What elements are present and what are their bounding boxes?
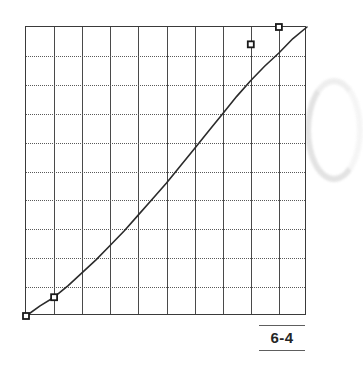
caption-rule-top <box>259 325 305 326</box>
chart-data-marker <box>248 41 254 47</box>
caption-rule-bottom <box>259 350 305 351</box>
scan-artifact-arc <box>305 78 363 182</box>
chart-data-marker <box>51 294 57 300</box>
line-chart <box>25 26 306 315</box>
chart-data-marker <box>23 313 29 319</box>
chart-plot-frame <box>25 26 306 315</box>
chart-data-marker <box>276 24 282 30</box>
figure-caption: 6-4 <box>259 325 305 357</box>
caption-label: 6-4 <box>259 329 305 347</box>
chart-curve <box>26 27 307 316</box>
chart-curve-layer <box>26 27 307 316</box>
